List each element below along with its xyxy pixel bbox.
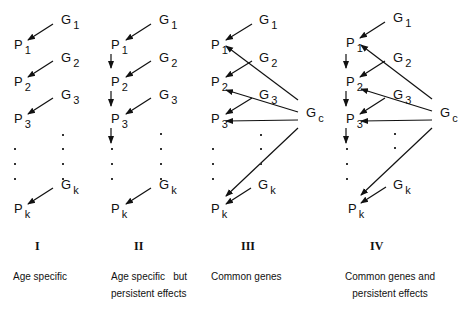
gene-node-g3: G3 (393, 88, 409, 101)
panel-caption: Age specific (13, 268, 67, 285)
phenotype-node-p2: P2 (111, 75, 126, 88)
panel-roman-numeral: I (35, 239, 40, 254)
gene-node-g2: G2 (159, 51, 175, 64)
gene-node-g2: G2 (393, 51, 409, 64)
gene-node-g1: G1 (393, 11, 409, 24)
phenotype-node-p1: P1 (14, 38, 29, 51)
gene-node-g3: G3 (159, 88, 175, 101)
panel-caption: Common genes (211, 268, 282, 285)
gene-node-g1: G1 (259, 13, 275, 26)
phenotype-node-p3: P3 (14, 112, 29, 125)
gene-node-g3: G3 (259, 88, 275, 101)
gene-node-gk: Gk (393, 178, 409, 191)
phenotype-node-pk: Pk (348, 202, 362, 215)
diagram-arrows (0, 0, 461, 312)
phenotype-node-p2: P2 (346, 75, 361, 88)
gene-node-gk: Gk (61, 178, 77, 191)
gene-node-gk: Gk (258, 178, 274, 191)
panel-caption: Common genes andpersistent effects (345, 268, 435, 302)
panel-roman-numeral: IV (370, 239, 383, 254)
phenotype-node-p1: P1 (111, 38, 126, 51)
gene-node-g3: G3 (61, 88, 77, 101)
phenotype-node-pk: Pk (211, 202, 225, 215)
phenotype-node-p2: P2 (211, 75, 226, 88)
common-gene-node-gc: Gc (306, 106, 322, 119)
phenotype-node-p3: P3 (211, 112, 226, 125)
common-gene-node-gc: Gc (440, 106, 456, 119)
phenotype-node-p3: P3 (346, 112, 361, 125)
phenotype-node-pk: Pk (14, 202, 28, 215)
phenotype-node-p2: P2 (14, 75, 29, 88)
panel-roman-numeral: III (241, 239, 255, 254)
panel-roman-numeral: II (134, 239, 143, 254)
gene-node-g2: G2 (61, 51, 77, 64)
phenotype-node-p1: P1 (211, 38, 226, 51)
gene-node-g1: G1 (61, 13, 77, 26)
phenotype-node-pk: Pk (111, 202, 125, 215)
panel-caption: Age specific butpersistent effects (111, 268, 187, 302)
gene-node-g1: G1 (159, 13, 175, 26)
gene-node-gk: Gk (159, 178, 175, 191)
gene-node-g2: G2 (259, 51, 275, 64)
phenotype-node-p1: P1 (346, 36, 361, 49)
phenotype-node-p3: P3 (111, 112, 126, 125)
